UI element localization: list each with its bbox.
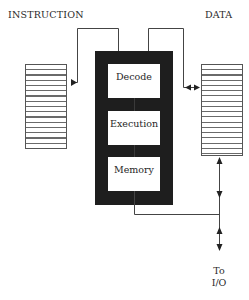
io-down-arrow-icon [217,244,223,251]
to-io-label-line1: To [204,265,234,277]
data-arrow-left-icon [185,85,191,91]
data-register-up-arrow-icon [217,157,223,164]
connection-wires [0,0,249,300]
bus-down-arrow-icon [217,191,223,198]
memory-output-wire [135,191,220,215]
data-arrow-right-icon [194,85,200,91]
to-io-label-line2: I/O [204,277,234,289]
instruction-arrow-icon [71,79,77,86]
io-up-arrow-icon [217,227,223,234]
to-io-label: To I/O [204,265,234,289]
instruction-bus-wire [72,29,119,83]
data-bus-wire [149,29,198,88]
